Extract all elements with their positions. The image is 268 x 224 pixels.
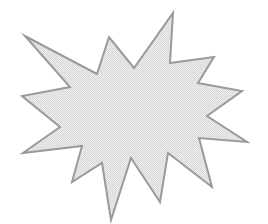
starburst-polygon[interactable]	[22, 13, 247, 220]
starburst-shape-icon[interactable]	[0, 0, 268, 224]
canvas	[0, 0, 268, 224]
